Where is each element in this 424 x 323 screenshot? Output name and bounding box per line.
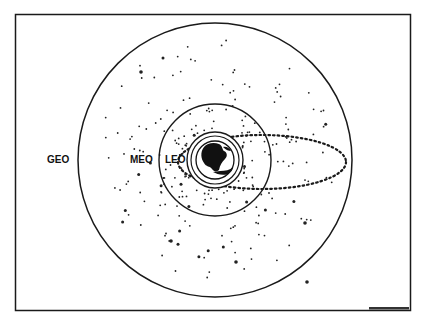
meo-label: MEO	[130, 154, 153, 165]
leo-label: LEO	[165, 154, 186, 165]
orbit-diagram: GEO MEO LEO	[0, 0, 424, 323]
geo-label: GEO	[47, 154, 69, 165]
earth-icon	[196, 141, 234, 179]
credit-mark	[369, 307, 409, 310]
